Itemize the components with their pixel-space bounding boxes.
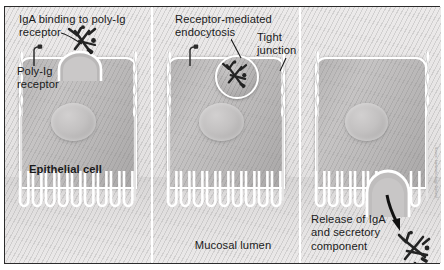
poly-ig-receptor-label: Poly-Ig receptor: [17, 65, 87, 92]
tight-junction-leader-line: [278, 58, 288, 72]
panel-2: Receptor-mediated endocytosis Tight junc…: [153, 7, 299, 263]
microvilli-icon: [15, 171, 141, 211]
tight-junction-label: Tight junction: [257, 31, 299, 58]
vesicle-circle-icon: [215, 55, 259, 99]
panel-1: IgA binding to poly-Ig receptor Poly-Ig …: [5, 7, 151, 263]
microvilli-icon: [163, 171, 289, 211]
endocytosis-leader-line: [231, 39, 243, 59]
nucleus-icon: [51, 103, 97, 141]
figure-root: IgA binding to poly-Ig receptor Poly-Ig …: [0, 0, 444, 270]
credit-line: Source: Immunobiology, Garland: [434, 147, 438, 198]
iga-binding-leader-line: [61, 32, 83, 46]
epithelial-cell-label: Epithelial cell: [29, 163, 139, 176]
panel-3: Release of IgA and secretory component: [301, 7, 441, 263]
release-of-iga-label: Release of IgA and secretory component: [311, 213, 403, 253]
figure-frame: IgA binding to poly-Ig receptor Poly-Ig …: [4, 6, 440, 264]
receptor-stalk-icon: [29, 40, 43, 66]
nucleus-icon: [199, 103, 245, 141]
nucleus-icon: [345, 103, 388, 141]
receptor-stalk-icon: [185, 40, 199, 66]
mucosal-lumen-label: Mucosal lumen: [183, 239, 283, 252]
